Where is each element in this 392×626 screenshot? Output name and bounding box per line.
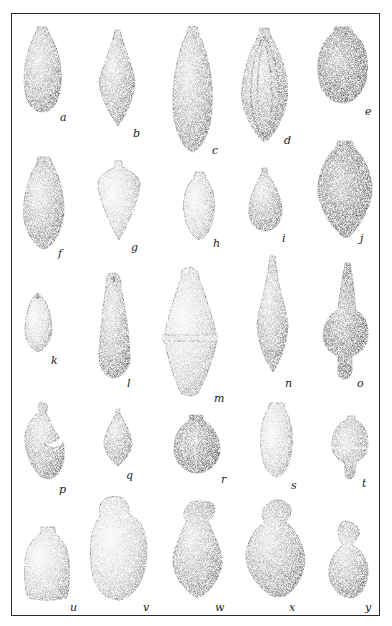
label-b: b (133, 128, 140, 139)
object-d (242, 28, 288, 142)
label-u: u (70, 602, 77, 613)
label-m: m (214, 393, 224, 404)
object-j (318, 141, 372, 238)
object-e (318, 27, 368, 103)
object-y (329, 521, 368, 598)
object-q (104, 409, 132, 466)
label-v: v (143, 602, 149, 613)
label-d: d (284, 135, 291, 146)
object-f (24, 157, 64, 249)
object-p (25, 402, 64, 479)
label-r: r (221, 474, 226, 485)
object-m-band (163, 335, 217, 341)
label-o: o (357, 378, 364, 389)
label-h: h (213, 238, 220, 249)
label-i: i (282, 233, 286, 244)
label-f: f (58, 248, 62, 259)
object-h (183, 172, 214, 240)
label-w: w (215, 602, 224, 613)
object-g (98, 161, 140, 240)
label-a: a (60, 112, 67, 123)
illustration-plate: a b c d e f g h i j k l m n o p q r s t … (0, 0, 392, 626)
label-t: t (362, 478, 366, 489)
label-k: k (51, 355, 58, 366)
object-w (173, 501, 222, 598)
object-s (261, 403, 293, 477)
object-k (25, 293, 52, 352)
object-n (257, 256, 288, 372)
object-c (173, 26, 213, 152)
label-x: x (289, 602, 295, 613)
object-x (246, 500, 305, 597)
object-m (164, 267, 217, 396)
label-c: c (212, 145, 218, 156)
label-n: n (285, 378, 292, 389)
label-l: l (127, 378, 131, 389)
object-b (99, 30, 135, 126)
object-l (99, 273, 130, 378)
object-a (24, 27, 61, 112)
object-u (25, 527, 70, 600)
object-i (249, 168, 282, 231)
label-j: j (360, 233, 363, 244)
object-o (323, 263, 368, 379)
label-s: s (291, 480, 297, 491)
label-e: e (365, 106, 372, 117)
label-y: y (365, 602, 371, 613)
object-v (90, 496, 147, 600)
label-q: q (126, 470, 133, 481)
label-p: p (59, 484, 66, 495)
label-g: g (131, 242, 138, 253)
object-r (174, 415, 220, 473)
plumb-bob-drawings (0, 0, 392, 626)
